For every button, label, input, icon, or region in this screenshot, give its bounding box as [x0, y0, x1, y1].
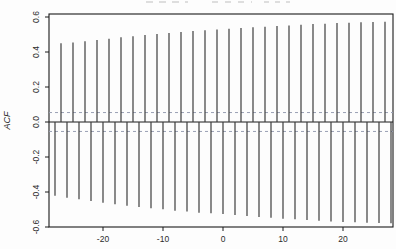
y-tick-label: -0.2 — [31, 149, 41, 164]
acf-chart: 0.60.40.20.0-0.2-0.4-0.6-20-1001020 ACF — [0, 0, 396, 249]
acf-plot-figure: 0.60.40.20.0-0.2-0.4-0.6-20-1001020 ACF — [0, 0, 396, 249]
y-tick-label: 0.0 — [31, 116, 41, 128]
y-tick-label: 0.4 — [31, 46, 41, 58]
plot-layer: 0.60.40.20.0-0.2-0.4-0.6-20-1001020 — [31, 11, 394, 244]
x-tick-label: -20 — [97, 234, 110, 244]
y-tick-label: -0.4 — [31, 184, 41, 199]
x-tick-label: 10 — [278, 234, 288, 244]
y-tick-label: 0.2 — [31, 81, 41, 93]
x-tick-label: -10 — [157, 234, 170, 244]
plot-box — [49, 14, 393, 227]
x-tick-label: 0 — [221, 234, 226, 244]
y-axis-title: ACF — [2, 111, 12, 131]
y-tick-label: 0.6 — [31, 11, 41, 23]
y-tick-label: -0.6 — [31, 219, 41, 234]
x-tick-label: 20 — [338, 234, 348, 244]
